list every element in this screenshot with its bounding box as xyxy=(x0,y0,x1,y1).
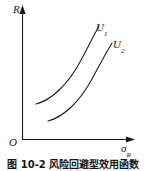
curve-label-u1-base: U xyxy=(96,21,104,33)
figure-container: R O σR U1 U2 图 10-2风险回避型效用函数 xyxy=(0,0,146,171)
curve-u2 xyxy=(48,43,112,121)
plot-area: R O σR U1 U2 xyxy=(0,0,146,160)
origin-label: O xyxy=(9,137,17,148)
curve-label-u2: U2 xyxy=(113,39,124,53)
curve-label-u2-base: U xyxy=(113,38,121,50)
figure-caption-text: 风险回避型效用函数 xyxy=(49,159,139,170)
x-axis-label: σR xyxy=(121,143,131,157)
figure-caption-number: 图 10-2 xyxy=(7,159,46,170)
curve-u1 xyxy=(36,26,99,104)
y-axis-label: R xyxy=(13,4,20,15)
axes-and-curves-svg xyxy=(0,0,146,160)
figure-caption: 图 10-2风险回避型效用函数 xyxy=(0,159,146,171)
curve-label-u1-subscript: 1 xyxy=(104,30,108,38)
x-axis-label-subscript: R xyxy=(126,151,130,159)
curve-label-u2-subscript: 2 xyxy=(121,47,125,55)
y-axis-arrowhead xyxy=(19,5,25,14)
curve-label-u1: U1 xyxy=(96,22,107,36)
x-axis-arrowhead xyxy=(126,136,135,142)
